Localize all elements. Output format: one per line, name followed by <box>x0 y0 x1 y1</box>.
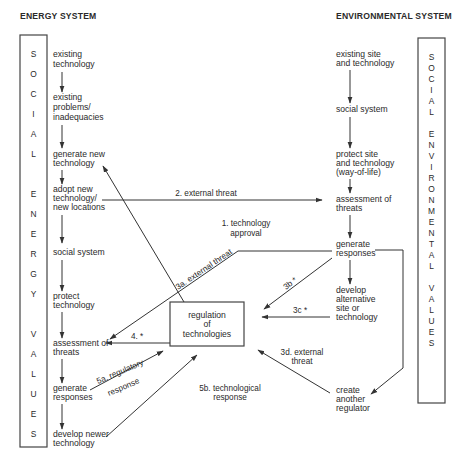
energy-node-existing-technology: existing technology <box>53 49 95 69</box>
svg-text:existing: existing <box>53 49 82 59</box>
environmental-system-header: ENVIRONMENTAL SYSTEM <box>336 11 452 21</box>
env-node-develop-alternative: develop alternative site or technology <box>336 285 378 322</box>
svg-text:E: E <box>429 129 435 139</box>
regulation-of-technologies-box: regulation of technologies <box>170 302 244 346</box>
env-node-protect-site: protect site and technology (way-of-life… <box>336 149 395 177</box>
svg-text:approval: approval <box>230 229 262 238</box>
svg-text:O: O <box>428 184 435 194</box>
edge-env-responses-to-regulator <box>371 250 403 394</box>
energy-node-develop-newer-technology: develop newer technology <box>53 429 109 448</box>
svg-text:technology: technology <box>53 438 95 448</box>
svg-text:U: U <box>30 389 36 399</box>
edge-3b: 3b * <box>264 258 332 309</box>
svg-text:I: I <box>430 162 432 172</box>
svg-text:2. external threat: 2. external threat <box>175 189 237 198</box>
edge-regulatory-response-5a: 5a. regulatory response <box>90 351 163 398</box>
edge-external-threat-3d: 3d. external threat <box>258 348 330 393</box>
svg-text:L: L <box>429 261 434 271</box>
env-node-assessment-of-threats: assessment of threats <box>336 194 392 213</box>
svg-text:L: L <box>429 305 434 315</box>
svg-text:A: A <box>31 349 37 359</box>
env-node-social-system: social system <box>336 104 388 114</box>
svg-text:technology: technology <box>53 300 95 310</box>
svg-text:E: E <box>31 409 37 419</box>
svg-text:1. technology: 1. technology <box>222 219 272 228</box>
svg-text:and technology: and technology <box>336 58 395 68</box>
svg-text:S: S <box>429 338 435 348</box>
svg-text:R: R <box>428 173 434 183</box>
svg-text:C: C <box>428 74 434 84</box>
svg-text:(way-of-life): (way-of-life) <box>336 167 381 177</box>
energy-node-generate-new-technology: generate new technology <box>53 149 106 168</box>
svg-text:new locations: new locations <box>53 202 105 212</box>
energy-node-adopt-new-technology: adopt new technology/ new locations <box>53 184 105 212</box>
svg-text:technology: technology <box>53 158 95 168</box>
svg-text:O: O <box>30 69 37 79</box>
svg-text:I: I <box>430 85 432 95</box>
svg-text:N: N <box>428 140 434 150</box>
svg-text:L: L <box>429 107 434 117</box>
svg-text:O: O <box>428 63 435 73</box>
social-energy-values-box: S O C I A L E N E R G Y V A L U E S <box>20 35 47 447</box>
svg-text:G: G <box>30 269 37 279</box>
energy-environment-regulation-diagram: ENERGY SYSTEM ENVIRONMENTAL SYSTEM S O C… <box>0 0 462 466</box>
svg-text:threats: threats <box>336 203 362 213</box>
svg-text:E: E <box>429 217 435 227</box>
edge-3c: 3c * <box>262 306 330 317</box>
svg-text:S: S <box>31 429 37 439</box>
svg-text:technology: technology <box>53 59 95 69</box>
energy-node-assessment-of-threats: assessment of threats <box>53 338 109 357</box>
energy-system-header: ENERGY SYSTEM <box>20 11 96 21</box>
svg-text:I: I <box>32 109 34 119</box>
env-node-existing-site: existing site and technology <box>336 49 395 68</box>
svg-text:E: E <box>31 229 37 239</box>
svg-text:T: T <box>429 239 434 249</box>
svg-text:A: A <box>429 294 435 304</box>
svg-text:inadequacies: inadequacies <box>53 112 104 122</box>
svg-text:S: S <box>31 49 37 59</box>
svg-text:5b. technological: 5b. technological <box>199 384 261 393</box>
svg-text:social system: social system <box>53 247 105 257</box>
edge-4: 4. * <box>106 332 170 343</box>
svg-text:A: A <box>429 250 435 260</box>
svg-text:Y: Y <box>31 289 37 299</box>
svg-text:responses: responses <box>53 392 93 402</box>
env-node-generate-responses: generate responses <box>336 239 376 258</box>
svg-text:C: C <box>30 89 36 99</box>
svg-text:E: E <box>31 189 37 199</box>
svg-text:3d. external: 3d. external <box>281 348 324 357</box>
svg-text:technology: technology <box>336 312 378 322</box>
svg-text:problems/: problems/ <box>53 102 91 112</box>
svg-text:A: A <box>31 129 37 139</box>
social-environmental-values-box: S O C I A L E N V I R O N M E N T A L V … <box>418 38 445 403</box>
svg-text:regulator: regulator <box>336 403 370 413</box>
svg-text:response: response <box>213 393 247 402</box>
energy-node-protect-technology: protect technology <box>53 291 95 310</box>
svg-text:4. *: 4. * <box>131 332 144 341</box>
svg-text:threats: threats <box>53 347 79 357</box>
env-node-create-another-regulator: create another regulator <box>336 385 370 413</box>
svg-text:N: N <box>428 228 434 238</box>
svg-text:S: S <box>429 52 435 62</box>
svg-text:technologies: technologies <box>183 329 231 339</box>
svg-text:A: A <box>429 96 435 106</box>
svg-text:L: L <box>31 149 36 159</box>
energy-node-social-system: social system <box>53 247 105 257</box>
svg-text:social system: social system <box>336 104 388 114</box>
svg-text:N: N <box>428 195 434 205</box>
svg-text:U: U <box>428 316 434 326</box>
svg-text:L: L <box>31 369 36 379</box>
svg-text:M: M <box>428 206 435 216</box>
svg-text:V: V <box>31 329 37 339</box>
svg-text:existing: existing <box>53 92 82 102</box>
svg-text:V: V <box>429 283 435 293</box>
energy-node-existing-problems: existing problems/ inadequacies <box>53 92 104 122</box>
svg-text:responses: responses <box>336 248 376 258</box>
svg-text:N: N <box>30 209 36 219</box>
svg-text:3c *: 3c * <box>293 306 308 315</box>
svg-text:of: of <box>203 319 211 329</box>
edge-external-threat-2: 2. external threat <box>102 189 322 200</box>
svg-text:E: E <box>429 327 435 337</box>
energy-node-generate-responses: generate responses <box>53 383 93 402</box>
svg-text:3a. external threat: 3a. external threat <box>174 247 234 292</box>
